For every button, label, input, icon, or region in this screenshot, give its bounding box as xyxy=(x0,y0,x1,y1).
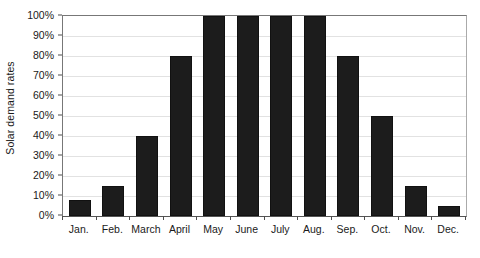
x-axis-tick-mark xyxy=(230,216,231,220)
y-axis-tick-label: 100% xyxy=(27,9,54,21)
x-axis-tick-mark xyxy=(163,216,164,220)
y-axis-tick-label: 60% xyxy=(33,89,54,101)
bar-slot xyxy=(432,16,466,216)
y-axis-tick-label: 90% xyxy=(33,29,54,41)
x-axis-tick-label: May xyxy=(196,223,230,245)
x-axis-tick-mark xyxy=(129,216,130,220)
bar-slot xyxy=(97,16,131,216)
x-axis-tick-label: Jan. xyxy=(62,223,96,245)
y-axis-tick-label: 80% xyxy=(33,49,54,61)
bar xyxy=(170,56,192,216)
x-axis-tick-mark xyxy=(62,216,63,220)
bar-slot xyxy=(298,16,332,216)
y-axis-tick-label: 30% xyxy=(33,149,54,161)
bar-slot xyxy=(63,16,97,216)
x-axis-tick-mark xyxy=(398,216,399,220)
x-axis-tick-mark xyxy=(431,216,432,220)
y-axis-tick-label: 20% xyxy=(33,169,54,181)
x-axis-tick-label: April xyxy=(163,223,197,245)
bar-slot xyxy=(332,16,366,216)
bar-slot xyxy=(231,16,265,216)
x-axis-tick-mark xyxy=(264,216,265,220)
x-axis-tick-mark xyxy=(465,216,466,220)
bar xyxy=(371,116,393,216)
x-axis-tick-label: July xyxy=(263,223,297,245)
x-axis-tick-mark xyxy=(364,216,365,220)
bar xyxy=(438,206,460,216)
x-axis-tick-label: March xyxy=(129,223,163,245)
y-axis-tick-labels: 0%10%20%30%40%50%60%70%80%90%100% xyxy=(20,0,58,258)
x-axis-tick-label: Dec. xyxy=(431,223,465,245)
bar-slot xyxy=(264,16,298,216)
bar-series xyxy=(63,16,466,216)
bar xyxy=(69,200,91,216)
bar-slot xyxy=(130,16,164,216)
x-axis-tick-mark xyxy=(196,216,197,220)
bar xyxy=(337,56,359,216)
x-axis-tick-label: Feb. xyxy=(96,223,130,245)
bar-slot xyxy=(197,16,231,216)
bar xyxy=(136,136,158,216)
y-axis-tick-label: 50% xyxy=(33,109,54,121)
x-axis-tick-label: Sep. xyxy=(331,223,365,245)
x-axis-tick-label: Aug. xyxy=(297,223,331,245)
y-axis-title-text: Solar demand rates xyxy=(4,61,16,154)
bar xyxy=(405,186,427,216)
bar-slot xyxy=(164,16,198,216)
bar-slot xyxy=(365,16,399,216)
x-axis-tick-label: Oct. xyxy=(364,223,398,245)
y-axis-tick-label: 40% xyxy=(33,129,54,141)
x-axis-tick-mark xyxy=(297,216,298,220)
x-axis-tick-label: Nov. xyxy=(398,223,432,245)
y-axis-tick-label: 70% xyxy=(33,69,54,81)
bar xyxy=(237,16,259,216)
x-axis-tick-mark xyxy=(96,216,97,220)
bar xyxy=(203,16,225,216)
bar-chart-figure: Solar demand rates 0%10%20%30%40%50%60%7… xyxy=(0,0,480,258)
y-axis-tick-label: 10% xyxy=(33,189,54,201)
bar xyxy=(304,16,326,216)
y-axis-title: Solar demand rates xyxy=(0,0,20,215)
bar xyxy=(270,16,292,216)
plot-area xyxy=(62,15,467,217)
y-axis-tick-label: 0% xyxy=(39,209,54,221)
x-axis-tick-marks xyxy=(62,216,465,222)
x-axis-tick-label: June xyxy=(230,223,264,245)
x-axis-tick-mark xyxy=(331,216,332,220)
bar xyxy=(102,186,124,216)
bar-slot xyxy=(399,16,433,216)
x-axis-tick-labels: Jan.Feb.MarchAprilMayJuneJulyAug.Sep.Oct… xyxy=(62,223,465,245)
